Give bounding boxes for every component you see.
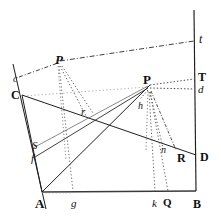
line-vertical-right <box>194 10 196 191</box>
label-R: R <box>177 152 186 164</box>
label-g: g <box>71 198 77 209</box>
label-f: f <box>31 153 34 164</box>
ray-P-right-to-Q <box>150 92 168 191</box>
label-D: D <box>200 151 209 163</box>
ray-P-upper-to-r-outer <box>62 66 93 113</box>
ray-P-right-to-d <box>150 88 194 89</box>
geometric-diagram: t P c C P T d h r S f n R D A g k Q B <box>0 0 221 220</box>
ray-c-to-P-upper <box>19 63 58 77</box>
label-r: r <box>81 106 85 117</box>
label-h: h <box>138 101 143 111</box>
line-P-right-to-f <box>35 88 148 157</box>
label-n: n <box>161 145 166 155</box>
ray-P-right-to-C-region <box>24 87 147 96</box>
ray-P-upper-to-t <box>60 41 194 61</box>
ray-P-right-to-T <box>150 79 194 85</box>
ray-P-right-inner-left <box>146 91 148 150</box>
label-k: k <box>152 198 157 209</box>
line-A-to-P-right <box>42 85 150 192</box>
ray-P-right-to-k <box>149 92 155 191</box>
label-S: S <box>32 140 38 151</box>
label-Q: Q <box>163 197 172 208</box>
label-T: T <box>198 71 206 83</box>
label-C: C <box>11 89 20 101</box>
label-A: A <box>35 197 44 210</box>
label-P-upper: P <box>55 53 63 66</box>
label-B: B <box>193 198 201 210</box>
line-P-right-to-S <box>33 86 148 148</box>
label-t: t <box>199 33 202 45</box>
diagram-canvas <box>0 0 221 220</box>
line-baseline-AB <box>42 191 196 192</box>
label-P-right: P <box>143 73 151 86</box>
label-d: d <box>198 84 204 95</box>
ray-P-upper-to-g <box>59 66 73 191</box>
ray-P-upper-steep <box>58 66 66 160</box>
label-c: c <box>13 74 17 84</box>
